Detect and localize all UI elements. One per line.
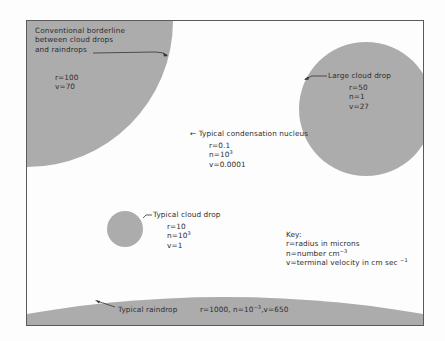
cloud-drop-leader-line [143,215,152,218]
borderline-values: r=100 v=70 [55,73,79,92]
typical-cloud-drop-number: n=103 [167,231,191,240]
typical-cloud-drop-circle [107,211,143,247]
typical-raindrop-values: r=1000, n=10−3,v=650 [200,305,288,314]
condensation-nucleus-label: ← Typical condensation nucleus [190,129,308,138]
drop-shapes [27,21,424,326]
large-cloud-drop-velocity: v=27 [349,102,369,111]
borderline-label: Conventional borderline between cloud dr… [35,26,125,54]
condensation-nucleus-number: n=103 [209,150,246,159]
borderline-label-line-3: and raindrops [35,45,125,54]
large-cloud-drop-values: r=50 n=1 v=27 [349,83,369,111]
key-line-number: n=number cm−3 [286,249,408,258]
raindrop-arrowhead-icon [95,300,100,304]
large-cloud-drop-number: n=1 [349,92,369,101]
borderline-velocity: v=70 [55,82,79,91]
borderline-label-line-1: Conventional borderline [35,26,125,35]
large-cloud-drop-label: Large cloud drop [328,71,391,80]
exponent: 3 [229,149,232,155]
diagram-frame [26,20,424,326]
typical-cloud-drop-values: r=10 n=103 v=1 [167,222,191,250]
large-cloud-drop-radius: r=50 [349,83,369,92]
condensation-nucleus-radius: r=0.1 [209,141,246,150]
exponent: 3 [187,230,190,236]
typical-raindrop-label: Typical raindrop [118,305,177,314]
condensation-nucleus-values: r=0.1 n=103 v=0.0001 [209,141,246,169]
condensation-nucleus-title: Typical condensation nucleus [199,129,309,138]
borderline-radius: r=100 [55,73,79,82]
key-line-velocity: v=terminal velocity in cm sec −1 [286,258,408,267]
typical-cloud-drop-label: Typical cloud drop [153,210,221,219]
borderline-label-line-2: between cloud drops [35,35,125,44]
condensation-nucleus-velocity: v=0.0001 [209,160,246,169]
key-title: Key: [286,230,408,239]
typical-cloud-drop-velocity: v=1 [167,241,191,250]
key-legend: Key: r=radius in microns n=number cm−3 v… [286,230,408,267]
exponent: −3 [254,304,262,310]
left-arrow-icon: ← [190,129,196,138]
